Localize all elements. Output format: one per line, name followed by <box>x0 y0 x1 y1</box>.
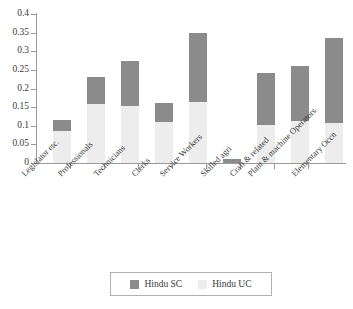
x-tick-mark <box>274 164 275 169</box>
bar-segment-hindu-sc <box>53 120 71 131</box>
legend-swatch-icon <box>130 280 139 289</box>
y-axis-tick-labels: 0.4 0.35 0.3 0.25 0.2 0.15 0.1 0.05 0 <box>0 0 29 180</box>
y-tick-label: 0.1 <box>17 121 29 131</box>
chart-legend: Hindu SC Hindu UC <box>110 272 272 296</box>
bar-segment-hindu-uc <box>121 106 139 163</box>
y-tick-label: 0.25 <box>12 65 29 75</box>
bar-segment-hindu-sc <box>257 73 275 125</box>
bar-clerks <box>155 103 173 163</box>
y-tick-label: 0.4 <box>17 9 29 19</box>
bar-segment-hindu-sc <box>121 61 139 106</box>
legend-entry-hindu-uc: Hindu UC <box>198 279 251 289</box>
y-tick-label: 0.3 <box>17 46 29 56</box>
stacked-bar-chart: 0.4 0.35 0.3 0.25 0.2 0.15 0.1 0.05 0 <box>0 0 353 309</box>
bar-segment-hindu-sc <box>189 33 207 102</box>
y-tick-label: 0.05 <box>12 139 29 149</box>
legend-label: Hindu SC <box>144 279 182 289</box>
legend-entry-hindu-sc: Hindu SC <box>130 279 182 289</box>
y-tick-label: 0.15 <box>12 102 29 112</box>
bar-segment-hindu-sc <box>155 103 173 122</box>
y-tick-label: 0.2 <box>17 84 29 94</box>
legend-label: Hindu UC <box>212 279 251 289</box>
legend-swatch-icon <box>198 280 207 289</box>
bar-segment-hindu-sc <box>325 38 343 123</box>
y-tick-label: 0.35 <box>12 28 29 38</box>
bar-segment-hindu-sc <box>87 77 105 104</box>
bar-segment-hindu-uc <box>87 104 105 163</box>
